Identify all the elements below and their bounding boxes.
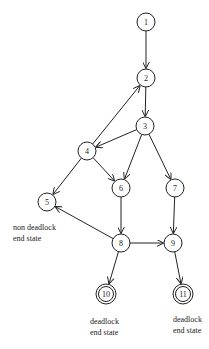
- annotation-line: end state: [13, 233, 56, 244]
- deadlock-end-state-label-11: deadlock end state: [173, 314, 202, 336]
- annotation-line: non deadlock: [13, 222, 56, 233]
- node-label: 3: [143, 122, 147, 131]
- state-node-3: 3: [136, 117, 154, 135]
- node-label: 2: [144, 74, 148, 83]
- state-node-6: 6: [112, 179, 130, 197]
- node-label: 4: [85, 147, 89, 156]
- edge-4-to-2: [93, 86, 140, 144]
- annotation-line: end state: [173, 325, 202, 336]
- state-node-1: 1: [137, 13, 155, 31]
- node-label: 5: [45, 198, 49, 207]
- node-label: 8: [119, 239, 123, 248]
- node-label: 6: [119, 184, 123, 193]
- edge-3-to-7: [149, 134, 171, 179]
- state-node-5: 5: [38, 193, 56, 211]
- non-deadlock-end-state-label: non deadlock end state: [13, 222, 56, 244]
- node-label: 9: [171, 239, 175, 248]
- state-node-9: 9: [164, 234, 182, 252]
- deadlock-end-state-label-10: deadlock end state: [90, 316, 119, 338]
- state-node-10: 10: [96, 284, 116, 304]
- node-label: 1: [144, 18, 148, 27]
- state-node-4: 4: [78, 142, 96, 160]
- node-label: 11: [179, 290, 187, 299]
- state-node-8: 8: [112, 234, 130, 252]
- edge-4-to-6: [93, 158, 114, 181]
- state-node-7: 7: [166, 179, 184, 197]
- edge-3-to-6: [125, 134, 142, 178]
- state-graph: 1234567891011: [0, 0, 209, 349]
- edge-7-to-9: [173, 197, 174, 233]
- annotation-line: deadlock: [90, 316, 119, 327]
- annotation-line: end state: [90, 327, 119, 338]
- annotation-line: deadlock: [173, 314, 202, 325]
- node-label: 7: [173, 184, 177, 193]
- state-node-11: 11: [173, 284, 193, 304]
- state-node-2: 2: [137, 69, 155, 87]
- edge-8-to-10: [109, 252, 118, 284]
- edge-9-to-11: [175, 252, 181, 283]
- edge-4-to-5: [53, 158, 81, 194]
- edge-8-to-5: [56, 207, 113, 239]
- edge-2-to-3: [145, 87, 146, 116]
- node-label: 10: [102, 290, 110, 299]
